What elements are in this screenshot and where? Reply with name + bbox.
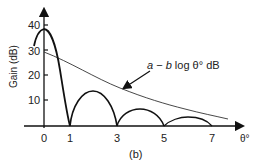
gain-vs-angle-chart: 40 30 20 10 Gain (dB) 0 1 3 5 7 θ° a − b… — [0, 0, 262, 164]
x-tick-label-1: 1 — [67, 132, 73, 144]
y-tick-label-30: 30 — [28, 45, 40, 57]
y-tick-label-40: 40 — [28, 19, 40, 31]
x-tick-label-0: 0 — [41, 132, 47, 144]
x-axis-title: θ° — [240, 133, 250, 144]
x-tick-label-7: 7 — [209, 132, 215, 144]
x-tick-label-3: 3 — [114, 132, 120, 144]
figure-caption: (b) — [129, 148, 142, 160]
annotation-minus: − — [153, 59, 166, 71]
envelope-annotation: a − b log θ° dB — [147, 59, 220, 71]
y-axis-title: Gain (dB) — [8, 45, 19, 88]
annotation-arrow — [124, 71, 150, 88]
y-tick-label-10: 10 — [28, 94, 40, 106]
x-tick-label-5: 5 — [161, 132, 167, 144]
y-tick-label-20: 20 — [28, 69, 40, 81]
annotation-rest: log θ° dB — [172, 59, 220, 71]
sidelobe-1 — [70, 91, 117, 126]
sidelobe-3 — [164, 117, 212, 126]
sidelobe-2 — [117, 109, 164, 126]
